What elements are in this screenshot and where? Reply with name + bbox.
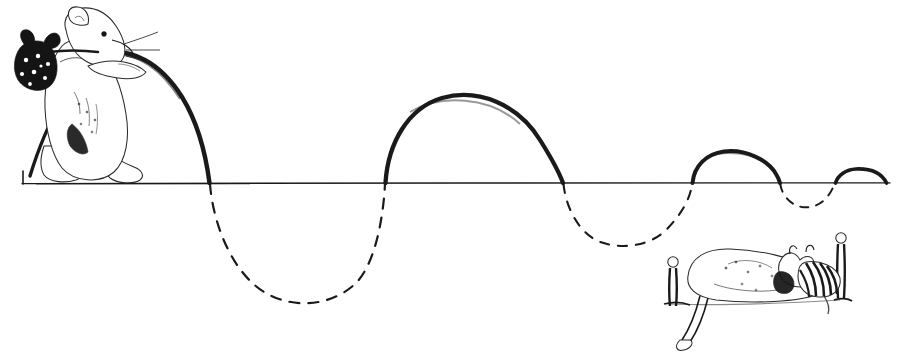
wave-trough-1 bbox=[210, 184, 385, 303]
wave-crest-3 bbox=[693, 151, 781, 183]
wave-trough-3 bbox=[780, 184, 834, 207]
baseline-axis bbox=[22, 171, 890, 184]
standing-mouse bbox=[14, 7, 160, 183]
bindle-bag bbox=[14, 30, 60, 91]
wave-crest-2 bbox=[386, 95, 564, 183]
wave-crest-4 bbox=[836, 169, 887, 183]
left-bedpost bbox=[664, 257, 690, 306]
sleeping-mouse-in-bed bbox=[664, 233, 852, 351]
sleeping-mouse-tail bbox=[824, 296, 829, 314]
striped-blanket bbox=[798, 262, 840, 297]
illustration-canvas: Damped oscillation A decaying sine wave … bbox=[0, 0, 904, 353]
wave-trough-2 bbox=[564, 184, 693, 246]
